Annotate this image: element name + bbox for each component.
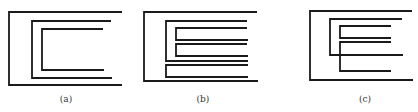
panel-b-outer-bracket — [144, 12, 258, 81]
panel-b-caption: (b) — [197, 94, 210, 104]
panel-b-inner-bracket-2 — [176, 44, 248, 56]
panel-b-bracket-diagram — [144, 12, 258, 81]
panel-c-bracket-diagram — [310, 11, 413, 80]
panel-c-inner-bracket-2 — [340, 42, 391, 71]
panel-c-caption: (c) — [359, 94, 371, 104]
panel-c-outer-bracket — [310, 11, 413, 80]
panel-b-bottom-bracket — [166, 65, 248, 77]
panel-a-bracket-diagram — [9, 12, 122, 85]
panel-c-second-bracket — [330, 19, 403, 55]
panel-c-inner-bracket-1 — [340, 26, 391, 38]
panel-a-caption: (a) — [60, 94, 72, 104]
panel-b-inner-bracket-1 — [176, 28, 248, 40]
panel-a-inner-bracket — [42, 29, 104, 70]
panel-b-second-bracket — [166, 21, 248, 61]
panel-a-outer-bracket — [9, 12, 122, 85]
